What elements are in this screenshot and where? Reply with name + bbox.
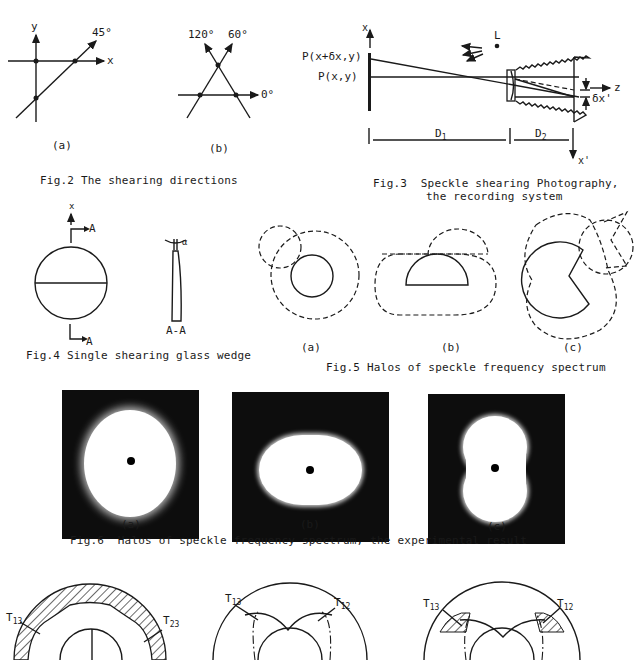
fig7b-t13-label: T13 bbox=[225, 592, 241, 607]
fig7a-t23-subscript: 23 bbox=[170, 620, 180, 629]
fig7a-aperture bbox=[60, 629, 122, 660]
fig7b-t13-leader bbox=[235, 605, 258, 620]
fig7a-t23-label: T23 bbox=[163, 614, 179, 629]
fig7c-t13-letter: T bbox=[423, 597, 430, 610]
fig7a-t13-subscript: 13 bbox=[13, 617, 23, 626]
fig7c-aperture bbox=[470, 628, 534, 660]
fig7b-t13-subscript: 13 bbox=[232, 598, 242, 607]
fig7b-t12-label: T12 bbox=[334, 596, 350, 611]
fig7a-t23-letter: T bbox=[163, 614, 170, 627]
fig7c-t13-label: T13 bbox=[423, 597, 439, 612]
fig7b-t12-subscript: 12 bbox=[341, 602, 351, 611]
fig7c-t12-subscript: 12 bbox=[564, 603, 574, 612]
fig7c-t13-hatch bbox=[440, 613, 470, 632]
fig7b-aperture bbox=[258, 628, 322, 660]
fig7c-t12-letter: T bbox=[557, 597, 564, 610]
fig7a-hatched-region bbox=[14, 584, 166, 660]
fig7b-t12-leader bbox=[318, 608, 335, 621]
fig7c-t13-subscript: 13 bbox=[430, 603, 440, 612]
fig7a-t13-label: T13 bbox=[6, 611, 22, 626]
fig7b-t13-letter: T bbox=[225, 592, 232, 605]
fig7b-dashdot-right bbox=[322, 612, 331, 660]
fig7c-t12-hatch bbox=[535, 613, 564, 632]
fig7b-t12-letter: T bbox=[334, 596, 341, 609]
fig7a-t13-letter: T bbox=[6, 611, 13, 624]
fig7-drawing bbox=[0, 0, 638, 660]
fig7c-t12-label: T12 bbox=[557, 597, 573, 612]
